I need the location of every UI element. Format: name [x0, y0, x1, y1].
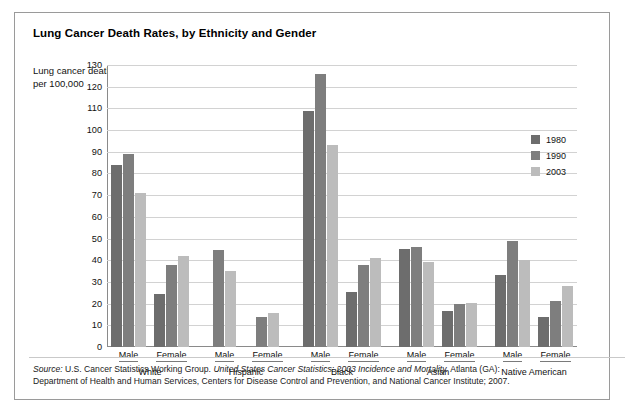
bar-group [438, 65, 481, 347]
gender-axis-label: Female [342, 350, 385, 362]
gender-axis-label: Male [299, 350, 342, 362]
bar [327, 145, 338, 347]
bar [466, 303, 477, 347]
gender-axis-label-text: Female [444, 350, 474, 362]
gender-axis-label-text: Female [348, 350, 378, 362]
bar [213, 250, 224, 347]
gender-axis-label-text: Male [407, 350, 427, 362]
gender-axis-label-text: Female [252, 350, 282, 362]
bar [166, 265, 177, 347]
bar-series-container [107, 65, 577, 347]
footer-divider [29, 357, 625, 358]
legend-label: 1980 [546, 135, 566, 145]
bar-group [203, 65, 246, 347]
gender-axis-label-text: Female [156, 350, 186, 362]
bar [154, 294, 165, 347]
bar [135, 193, 146, 347]
legend-item: 1980 [531, 133, 566, 146]
bar [358, 265, 369, 347]
source-label: Source: [33, 364, 63, 374]
bar [399, 249, 410, 347]
source-line1-a: U.S. Cancer Statistics Working Group. [63, 364, 214, 374]
bar [495, 275, 506, 347]
y-axis-tick-label: 0 [97, 342, 102, 352]
gender-axis-label-text: Male [215, 350, 235, 362]
y-axis-tick-label: 20 [92, 299, 102, 309]
plot-area: 0102030405060708090100110120130 [107, 65, 577, 347]
y-axis-tick-label: 50 [92, 234, 102, 244]
bar-group [299, 65, 342, 347]
bar [123, 154, 134, 347]
y-axis-tick-label: 80 [92, 168, 102, 178]
bar [442, 311, 453, 347]
y-axis-tick-label: 130 [87, 60, 102, 70]
bar-group [107, 65, 150, 347]
y-axis-tick-label: 90 [92, 147, 102, 157]
gender-axis-label-text: Male [311, 350, 331, 362]
legend-label: 2003 [546, 167, 566, 177]
source-line2: Department of Health and Human Services,… [33, 376, 510, 386]
y-axis-tick-label: 30 [92, 277, 102, 287]
y-axis-tick-label: 60 [92, 212, 102, 222]
bar [550, 301, 561, 347]
source-publication-title: United States Cancer Statistics: 2003 In… [213, 364, 448, 374]
legend-swatch-1990 [531, 151, 540, 160]
gender-axis-label: Male [491, 350, 534, 362]
figure-panel: Lung Cancer Death Rates, by Ethnicity an… [14, 12, 610, 400]
bar [225, 271, 236, 347]
bar [519, 260, 530, 347]
y-axis-tick-label: 10 [92, 320, 102, 330]
bar [256, 317, 267, 347]
y-axis-caption: Lung cancer deaths per 100,000 [33, 65, 118, 90]
bar-group [246, 65, 289, 347]
bar [370, 258, 381, 347]
bar-group [491, 65, 534, 347]
y-axis-tick-label: 70 [92, 190, 102, 200]
bar [507, 241, 518, 347]
source-note: Source: U.S. Cancer Statistics Working G… [33, 363, 593, 388]
chart-title: Lung Cancer Death Rates, by Ethnicity an… [33, 27, 316, 39]
legend-label: 1990 [546, 151, 566, 161]
gender-axis-label: Female [438, 350, 481, 362]
source-line1-b: Atlanta (GA): [448, 364, 500, 374]
gender-axis-label: Female [534, 350, 577, 362]
bar-group [150, 65, 193, 347]
gender-axis-label-text: Male [119, 350, 139, 362]
bar [268, 313, 279, 347]
bar [111, 165, 122, 347]
legend-swatch-2003 [531, 167, 540, 176]
gender-axis-label-text: Female [540, 350, 570, 362]
bar [454, 304, 465, 347]
bar [411, 247, 422, 347]
legend-item: 1990 [531, 149, 566, 162]
bar [538, 317, 549, 347]
bar [315, 74, 326, 347]
gender-axis-label: Female [246, 350, 289, 362]
legend-item: 2003 [531, 165, 566, 178]
bar [423, 262, 434, 347]
bar-group [534, 65, 577, 347]
gender-axis-label: Male [107, 350, 150, 362]
y-axis-tick-label: 120 [87, 82, 102, 92]
gender-axis-label: Male [203, 350, 246, 362]
bar-group [395, 65, 438, 347]
bar [346, 292, 357, 347]
bar [178, 256, 189, 347]
y-axis-tick-label: 40 [92, 255, 102, 265]
gender-axis-label: Female [150, 350, 193, 362]
gender-axis-label-text: Male [503, 350, 523, 362]
bar-group [342, 65, 385, 347]
legend-swatch-1980 [531, 135, 540, 144]
chart-legend: 198019902003 [531, 133, 566, 181]
bar [562, 286, 573, 347]
y-axis-tick-label: 100 [87, 125, 102, 135]
bar [303, 111, 314, 347]
y-axis-tick-label: 110 [87, 103, 102, 113]
gender-axis-label: Male [395, 350, 438, 362]
